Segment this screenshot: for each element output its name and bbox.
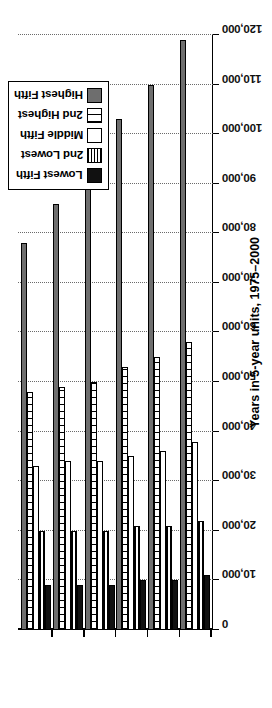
axis-tick: [213, 232, 219, 233]
axis-tick: [213, 579, 219, 580]
swatch-highest-fifth: [87, 88, 102, 103]
chart-rotation-wrapper: 010,00020,00030,00040,00050,00060,00070,…: [0, 0, 272, 708]
legend-item: Highest Fifth: [14, 88, 102, 103]
x-axis-title: Years in 5-year units, 1975–2000: [248, 35, 262, 630]
swatch-2nd-highest: [87, 108, 102, 123]
axis-tick: [213, 183, 219, 184]
legend-label: Middle Fifth: [20, 130, 83, 142]
axis-tick-label: 120,000: [222, 23, 262, 35]
bar: [77, 585, 83, 630]
category-tick: [147, 630, 149, 637]
axis-tick: [213, 530, 219, 531]
legend-label: 2nd Lowest: [21, 150, 83, 162]
axis-tick: [213, 480, 219, 481]
legend-label: 2nd Highest: [18, 110, 83, 122]
axis-tick: [213, 381, 219, 382]
axis-tick: [213, 84, 219, 85]
swatch-lowest-fifth: [87, 168, 102, 183]
legend-label: Lowest Fifth: [16, 170, 83, 182]
bar: [204, 575, 210, 630]
bar-group: [115, 35, 147, 630]
swatch-middle-fifth: [87, 128, 102, 143]
swatch-2nd-lowest: [87, 148, 102, 163]
category-tick: [179, 630, 181, 637]
category-tick: [83, 630, 85, 637]
income-quintile-bar-chart: 010,00020,00030,00040,00050,00060,00070,…: [0, 0, 272, 708]
category-tick: [51, 630, 53, 637]
chart-legend: Highest Fifth2nd HighestMiddle Fifth2nd …: [8, 81, 109, 190]
legend-item: Middle Fifth: [20, 128, 102, 143]
legend-item: Lowest Fifth: [16, 168, 102, 183]
bar: [109, 585, 115, 630]
axis-tick: [213, 629, 219, 630]
category-tick: [115, 630, 117, 637]
bar: [140, 580, 146, 630]
legend-item: 2nd Highest: [18, 108, 102, 123]
axis-tick: [213, 34, 219, 35]
axis-tick-label: 0: [222, 618, 228, 630]
legend-label: Highest Fifth: [14, 90, 83, 102]
bar: [45, 585, 51, 630]
bar-group: [179, 35, 211, 630]
bar: [172, 580, 178, 630]
category-tick: [210, 630, 212, 637]
axis-tick: [213, 431, 219, 432]
legend-item: 2nd Lowest: [21, 148, 102, 163]
axis-tick: [213, 282, 219, 283]
axis-tick: [213, 133, 219, 134]
axis-tick: [213, 332, 219, 333]
bar-group: [147, 35, 179, 630]
